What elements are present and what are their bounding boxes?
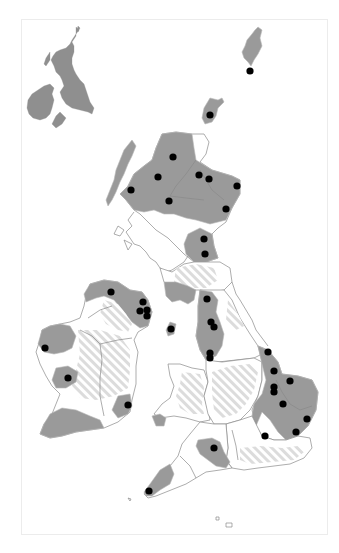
marker-cumbria[interactable] xyxy=(203,295,210,302)
marker-moray-2[interactable] xyxy=(205,175,212,182)
marker-mayo[interactable] xyxy=(41,344,48,351)
marker-donegal[interactable] xyxy=(107,288,114,295)
marker-essex[interactable] xyxy=(292,428,299,435)
marker-orkney[interactable] xyxy=(206,111,213,118)
marker-aberdeenshire[interactable] xyxy=(233,182,240,189)
marker-norfolk-north[interactable] xyxy=(286,377,293,384)
wales[interactable] xyxy=(152,364,210,426)
marker-fife[interactable] xyxy=(200,235,207,242)
marker-shetland[interactable] xyxy=(246,67,253,74)
marker-lancashire-2[interactable] xyxy=(210,323,217,330)
marker-lincolnshire-south-2[interactable] xyxy=(270,388,277,395)
orkney-islands[interactable] xyxy=(202,98,224,124)
marker-ross[interactable] xyxy=(154,173,161,180)
marker-down-2[interactable] xyxy=(143,312,150,319)
south-west-england[interactable] xyxy=(144,422,232,498)
marker-highland-central[interactable] xyxy=(165,197,172,204)
marker-borders[interactable] xyxy=(201,250,208,257)
marker-lincolnshire[interactable] xyxy=(270,367,277,374)
inset-locator-map xyxy=(27,26,94,128)
british-isles-map[interactable] xyxy=(0,0,339,553)
marker-lincolnshire-north[interactable] xyxy=(264,348,271,355)
marker-angus[interactable] xyxy=(222,205,229,212)
marker-galway[interactable] xyxy=(64,374,71,381)
inset-great-britain xyxy=(51,27,94,128)
inset-shetland xyxy=(77,26,80,32)
scotland-highlands[interactable] xyxy=(120,132,240,262)
marker-moray-1[interactable] xyxy=(195,171,202,178)
marker-bedfordshire[interactable] xyxy=(261,432,268,439)
inset-hebrides xyxy=(44,52,50,66)
inset-ireland xyxy=(27,84,54,120)
marker-cornwall[interactable] xyxy=(145,487,152,494)
marker-somerset[interactable] xyxy=(210,444,217,451)
marker-cambridgeshire[interactable] xyxy=(279,400,286,407)
northern-england[interactable] xyxy=(196,282,268,362)
ireland[interactable] xyxy=(36,280,152,438)
shetland-islands[interactable] xyxy=(242,27,262,66)
marker-suffolk[interactable] xyxy=(303,415,310,422)
small-islands-south xyxy=(128,498,232,527)
marker-wexford[interactable] xyxy=(124,401,131,408)
marker-cheshire-2[interactable] xyxy=(206,354,213,361)
marker-isle-of-man[interactable] xyxy=(167,325,174,332)
marker-antrim-2[interactable] xyxy=(136,307,143,314)
marker-antrim-1[interactable] xyxy=(139,298,146,305)
east-england[interactable] xyxy=(252,346,318,440)
marker-sutherland[interactable] xyxy=(169,153,176,160)
marker-skye[interactable] xyxy=(127,186,134,193)
